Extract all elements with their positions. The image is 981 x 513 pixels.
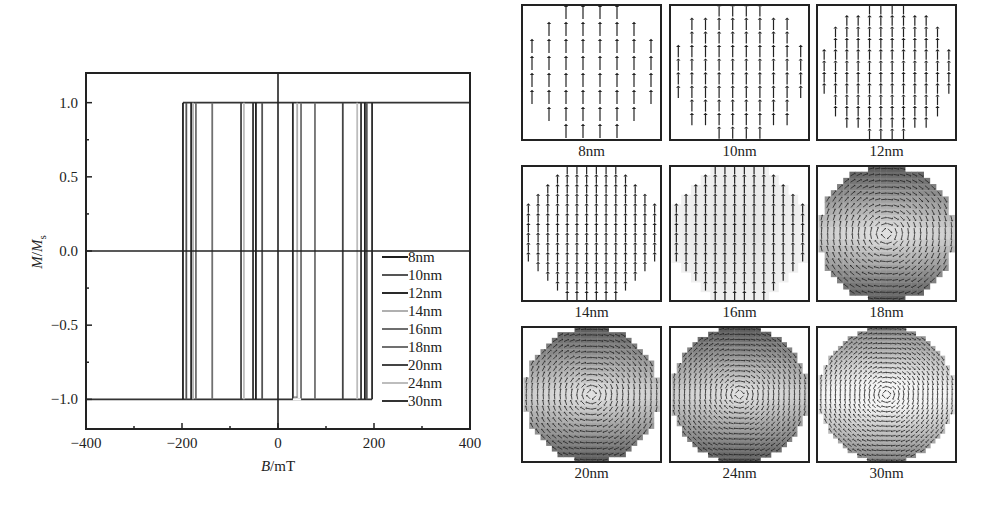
y-tick-label: −1.0 — [51, 391, 78, 407]
x-tick-label: 400 — [459, 435, 482, 451]
panel-label: 10nm — [669, 143, 810, 160]
legend-entry: 24nm — [408, 375, 443, 391]
chart-legend: 8nm10nm12nm14nm16nm18nm20nm24nm30nm — [382, 249, 443, 409]
spin-panel-18nm — [816, 165, 957, 302]
legend-entry: 10nm — [408, 267, 443, 283]
spin-panel-24nm — [669, 326, 810, 463]
y-tick-label: −0.5 — [51, 317, 78, 333]
legend-entry: 16nm — [408, 321, 443, 337]
panel-label: 18nm — [816, 304, 957, 321]
legend-entry: 30nm — [408, 393, 443, 409]
panel-label: 24nm — [669, 465, 810, 482]
spin-panel-12nm — [816, 4, 957, 141]
spin-panel-14nm — [521, 165, 662, 302]
spin-panel-30nm — [816, 326, 957, 463]
x-tick-label: −400 — [71, 435, 102, 451]
spin-panel-8nm — [521, 4, 662, 141]
legend-entry: 18nm — [408, 339, 443, 355]
panel-label: 14nm — [521, 304, 662, 321]
spin-panel-16nm — [669, 165, 810, 302]
spin-panel-10nm — [669, 4, 810, 141]
x-tick-label: 0 — [274, 435, 282, 451]
spin-panel-20nm — [521, 326, 662, 463]
y-axis-title: M/Ms — [29, 235, 48, 269]
y-tick-label: 0.0 — [59, 243, 78, 259]
x-tick-label: 200 — [363, 435, 386, 451]
panel-label: 8nm — [521, 143, 662, 160]
panel-label: 12nm — [816, 143, 957, 160]
legend-entry: 20nm — [408, 357, 443, 373]
legend-entry: 14nm — [408, 303, 443, 319]
legend-entry: 12nm — [408, 285, 443, 301]
legend-entry: 8nm — [408, 249, 435, 265]
panel-label: 16nm — [669, 304, 810, 321]
hysteresis-chart: −400−20002004001.00.50.0−0.5−1.0 M/Ms B/… — [0, 0, 500, 513]
panel-label: 30nm — [816, 465, 957, 482]
x-tick-label: −200 — [167, 435, 198, 451]
y-tick-label: 0.5 — [59, 169, 78, 185]
y-tick-label: 1.0 — [59, 95, 78, 111]
x-axis-title: B/mT — [261, 458, 295, 474]
panel-label: 20nm — [521, 465, 662, 482]
